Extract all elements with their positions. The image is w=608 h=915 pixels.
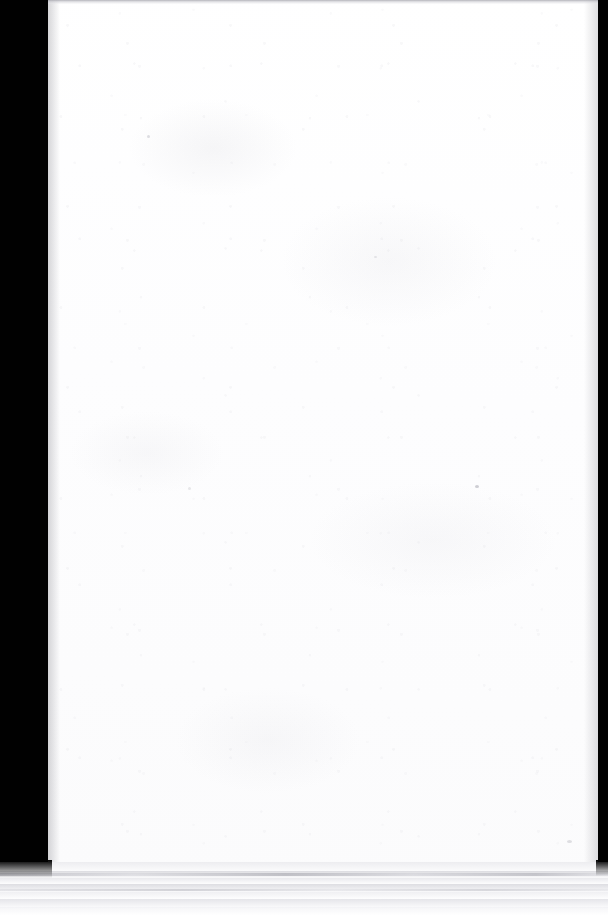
stack-band-1 [0, 862, 608, 872]
dust-speck-4 [374, 256, 377, 258]
paper-shading-smudge [48, 0, 598, 871]
scanned-page-viewport: Scanned blank white page on a black scan… [0, 0, 608, 915]
stack-band-3 [0, 878, 608, 884]
stack-band-6 [0, 899, 608, 908]
dust-speck-5 [188, 487, 191, 490]
stack-band-5 [0, 892, 608, 899]
stack-band-2 [0, 871, 608, 878]
dust-speck-1 [475, 485, 479, 488]
stack-band-4 [0, 884, 608, 892]
dust-speck-2 [567, 840, 572, 843]
stack-band-7 [0, 907, 608, 915]
stack-crease-secondary [0, 889, 608, 891]
page-sheet [48, 0, 598, 871]
stack-crease-primary [0, 873, 608, 876]
paper-grain-texture [48, 0, 598, 871]
dust-speck-3 [147, 135, 150, 138]
page-stack-edge [0, 862, 608, 915]
